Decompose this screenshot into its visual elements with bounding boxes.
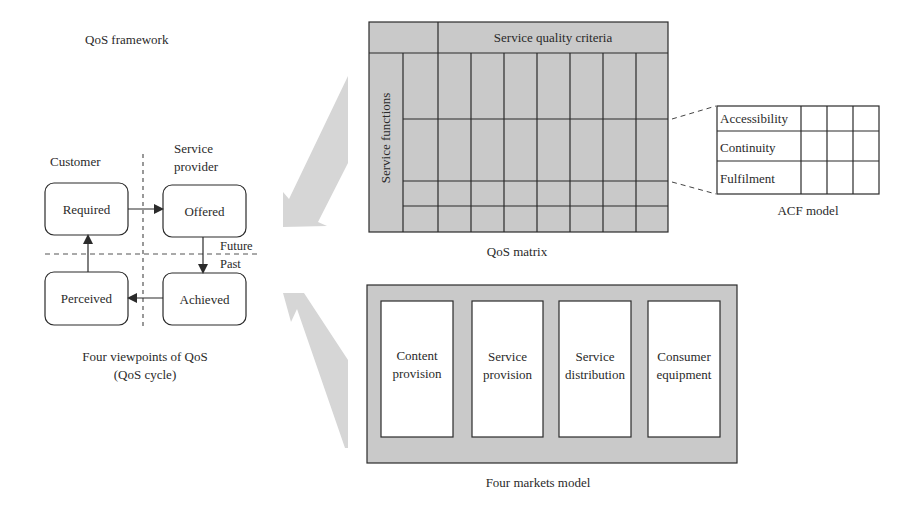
matrix-caption: QoS matrix <box>487 244 548 259</box>
matrix-row-header: Service functions <box>378 93 393 184</box>
framework-title: QoS framework <box>85 32 169 47</box>
matrix-column-header: Service quality criteria <box>494 30 613 45</box>
node-required: Required <box>45 183 128 235</box>
matrix-to-cycle-arrow <box>283 76 348 227</box>
market-3-line2: distribution <box>565 367 625 382</box>
market-consumer-equipment: Consumer equipment <box>648 301 720 437</box>
acf-caption: ACF model <box>777 203 838 218</box>
market-4-line2: equipment <box>657 367 712 382</box>
market-service-distribution: Service distribution <box>559 301 631 437</box>
qos-cycle: Customer Service provider Required Offer… <box>45 141 258 382</box>
node-offered: Offered <box>163 185 246 237</box>
acf-row-accessibility: Accessibility <box>720 111 788 126</box>
market-1-line2: provision <box>392 366 442 381</box>
acf-model: Accessibility Continuity Fulfilment ACF … <box>717 106 879 218</box>
qos-matrix: Service quality criteria Service functio… <box>369 22 668 259</box>
acf-row-continuity: Continuity <box>720 140 776 155</box>
node-achieved-label: Achieved <box>180 292 230 307</box>
market-2-line1: Service <box>488 349 527 364</box>
provider-header-line2: provider <box>174 159 219 174</box>
market-2-line2: provision <box>483 367 533 382</box>
acf-row-fulfilment: Fulfilment <box>720 171 775 186</box>
markets-caption: Four markets model <box>486 475 591 490</box>
past-label: Past <box>220 257 241 271</box>
market-1-line1: Content <box>396 348 438 363</box>
acf-connector-top <box>672 106 716 119</box>
cycle-caption-line1: Four viewpoints of QoS <box>82 349 207 364</box>
future-label: Future <box>220 239 253 253</box>
provider-header-line1: Service <box>174 141 213 156</box>
market-4-line1: Consumer <box>657 349 711 364</box>
acf-connector-bottom <box>672 182 716 194</box>
node-offered-label: Offered <box>184 204 225 219</box>
market-3-line1: Service <box>576 349 615 364</box>
market-content-provision: Content provision <box>381 301 453 437</box>
node-perceived-label: Perceived <box>61 291 113 306</box>
node-required-label: Required <box>63 202 111 217</box>
node-perceived: Perceived <box>45 272 128 325</box>
four-markets-model: Content provision Service provision Serv… <box>367 285 737 490</box>
qos-framework-diagram: QoS framework Customer Service provider … <box>0 0 917 511</box>
node-achieved: Achieved <box>163 273 246 325</box>
markets-to-cycle-arrow <box>283 293 348 448</box>
market-service-provision: Service provision <box>472 301 543 437</box>
cycle-caption-line2: (QoS cycle) <box>114 367 176 382</box>
customer-header: Customer <box>50 154 101 169</box>
